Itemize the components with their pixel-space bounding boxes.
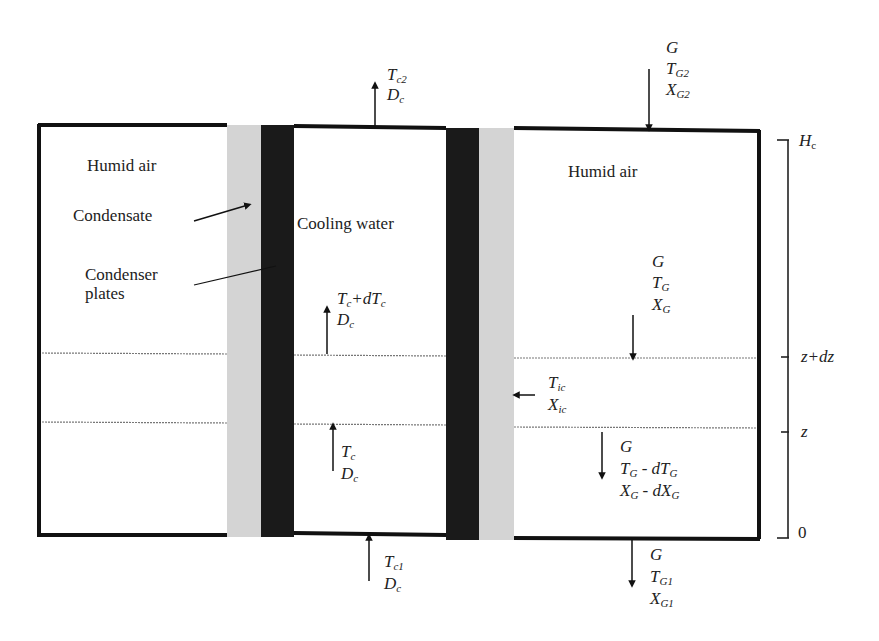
air-outlet-flow: G: [650, 545, 662, 565]
condenser-plates-label-line2: plates: [85, 284, 125, 304]
height-axis-upper-tick-label: z+dz: [801, 347, 834, 367]
left-humid-air-label: Humid air: [87, 156, 156, 176]
water-element-bottom-flow: Dc: [341, 464, 358, 484]
air-element-top-humidity: XG: [652, 295, 670, 315]
control-volume-lines: [42, 353, 757, 428]
water-outlet-temp: Tc2: [387, 65, 407, 85]
air-element-bottom-flow: G: [620, 437, 632, 457]
air-element-bottom-humidity: XG - dXG: [620, 481, 679, 501]
height-axis-top-label: Hc: [799, 131, 816, 151]
air-element-top-flow: G: [652, 252, 664, 272]
right-condensate-layer: [479, 128, 514, 540]
water-element-top-flow: Dc: [337, 310, 354, 330]
condenser-plates-label-line1: Condenser: [85, 265, 158, 285]
left-condenser-plate: [261, 125, 294, 537]
height-axis-bottom-label: 0: [798, 523, 807, 543]
air-outlet-humidity: XG1: [650, 589, 674, 609]
right-humid-air-label: Humid air: [568, 162, 637, 182]
height-axis-lower-tick-label: z: [801, 422, 808, 442]
air-inlet-humidity: XG2: [666, 80, 690, 100]
right-condenser-plate: [446, 128, 479, 540]
interface-temp: Tic: [548, 373, 565, 393]
water-element-bottom-temp: Tc: [341, 442, 355, 462]
air-element-top-temp: TG: [652, 273, 669, 293]
water-element-top-temp: Tc+dTc: [337, 289, 386, 309]
air-inlet-flow: G: [666, 38, 678, 58]
air-outlet-temp: TG1: [650, 567, 673, 587]
water-outlet-flow: Dc: [387, 85, 404, 105]
water-inlet-temp: Tc1: [384, 552, 404, 572]
diagram-canvas: [0, 0, 879, 641]
cooling-water-label: Cooling water: [297, 214, 394, 234]
interface-humidity: Xic: [548, 395, 566, 415]
air-element-bottom-temp: TG - dTG: [620, 459, 678, 479]
left-condensate-layer: [227, 125, 261, 537]
water-inlet-flow: Dc: [384, 574, 401, 594]
condensate-label: Condensate: [73, 206, 152, 226]
height-axis: [777, 140, 789, 538]
air-inlet-temp: TG2: [666, 59, 689, 79]
